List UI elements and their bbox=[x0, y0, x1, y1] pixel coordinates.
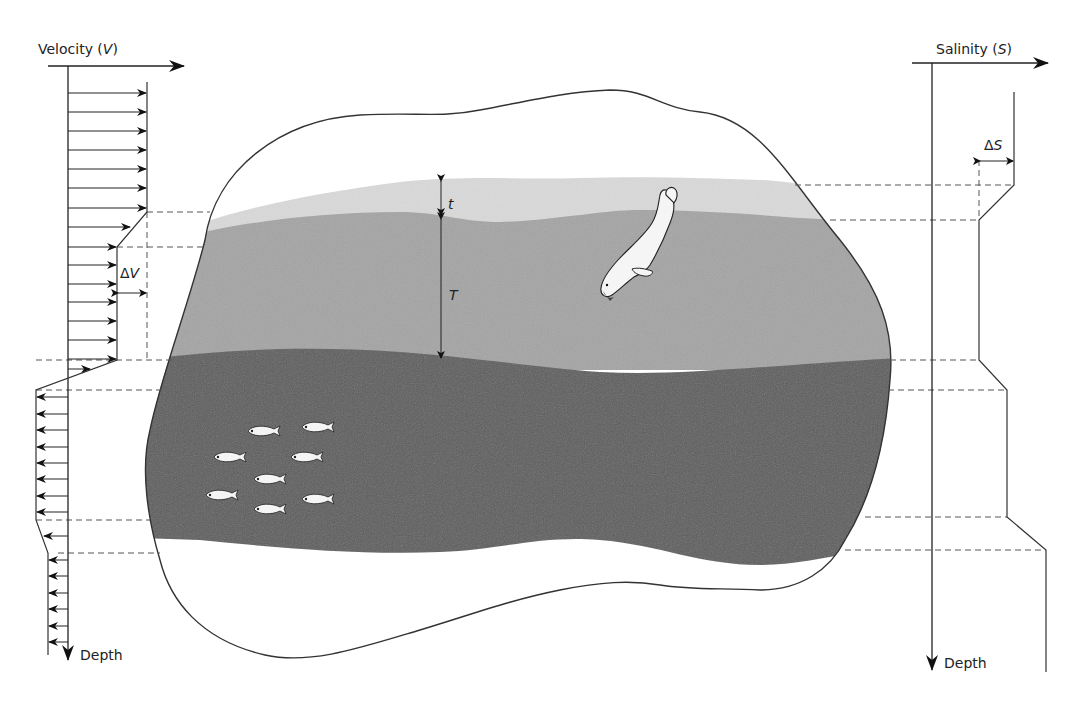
middle-layer bbox=[140, 210, 900, 370]
water-body bbox=[140, 177, 900, 565]
velocity-vectors-positive bbox=[68, 93, 146, 369]
velocity-axis-label: Velocity (V) bbox=[38, 41, 118, 57]
ocean-layers-diagram: t T bbox=[0, 0, 1081, 717]
velocity-profile-curve bbox=[36, 82, 147, 655]
thin-layer-label: t bbox=[448, 196, 454, 212]
velocity-depth-label: Depth bbox=[80, 647, 123, 663]
salinity-profile-curve bbox=[979, 92, 1046, 672]
velocity-profile: Velocity (V) Depth bbox=[36, 41, 184, 663]
salinity-profile: Salinity (S) Depth ΔS bbox=[912, 41, 1048, 672]
delta-s-label: ΔS bbox=[984, 137, 1003, 153]
deep-layer bbox=[140, 349, 900, 565]
delta-v-label: ΔV bbox=[120, 265, 141, 281]
salinity-depth-label: Depth bbox=[944, 655, 987, 671]
thick-layer-label: T bbox=[449, 287, 459, 303]
salinity-axis-label: Salinity (S) bbox=[936, 41, 1012, 57]
